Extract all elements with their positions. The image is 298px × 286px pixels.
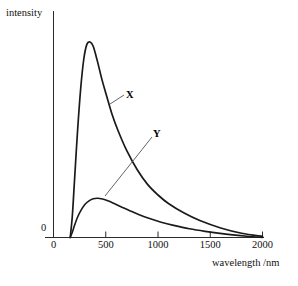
x-axis-tick-label-1500: 1500 xyxy=(200,240,221,251)
x-axis-tick-label-500: 500 xyxy=(98,240,114,251)
series-curve-x xyxy=(70,42,262,238)
x-axis-title: wavelength /nm xyxy=(212,258,279,269)
x-axis-tick-label-0: 0 xyxy=(51,240,56,251)
series-group xyxy=(70,42,262,238)
y-axis-tick-label-0: 0 xyxy=(41,223,46,234)
leader-line-y-icon xyxy=(105,137,152,196)
series-label-y: Y xyxy=(153,129,161,140)
x-axis-tick-label-2000: 2000 xyxy=(252,240,273,251)
series-label-x: X xyxy=(126,90,134,101)
spectral-intensity-chart: intensity 0 wavelength /nm X Y 050010001… xyxy=(0,0,298,286)
leader-line-x-icon xyxy=(110,95,124,104)
x-axis-tick-label-1000: 1000 xyxy=(148,240,169,251)
y-axis-title: intensity xyxy=(6,8,42,19)
